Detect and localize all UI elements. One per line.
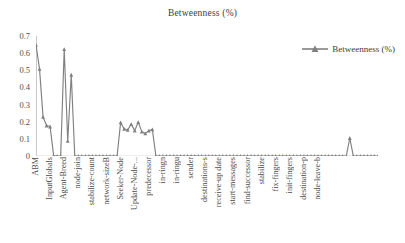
x-axis-tick-label: in-ringu bbox=[172, 157, 181, 183]
y-axis-tick-label: 0.4 bbox=[19, 82, 30, 92]
data-point-marker bbox=[348, 136, 352, 140]
y-axis: 00.10.20.30.40.50.60.7 bbox=[0, 30, 33, 162]
y-axis-tick-label: 0.7 bbox=[19, 31, 30, 41]
plot-area bbox=[36, 36, 378, 156]
x-axis: ABMInputGlobalsAgent-Breednode-joinstabi… bbox=[36, 157, 378, 243]
y-axis-tick-label: 0.3 bbox=[19, 100, 30, 110]
data-point-marker bbox=[69, 73, 73, 77]
x-axis-tick-label: stabilize bbox=[257, 157, 266, 184]
series-line-betweenness bbox=[36, 36, 378, 156]
x-axis-tick-label: destination-p bbox=[299, 157, 308, 200]
y-axis-tick-label: 0.5 bbox=[19, 65, 30, 75]
x-axis-tick-label: sender bbox=[186, 157, 195, 178]
x-axis-tick-label: in-ringn bbox=[158, 157, 167, 183]
x-axis-tick-label: Seeker-Node bbox=[116, 157, 125, 200]
data-point-marker bbox=[140, 130, 144, 134]
chart-title: Betweenness (%) bbox=[0, 8, 405, 18]
legend: Betweenness (%) bbox=[302, 44, 395, 54]
x-axis-tick-label: destinations-s bbox=[200, 157, 209, 202]
legend-label: Betweenness (%) bbox=[332, 44, 395, 54]
data-point-marker bbox=[129, 122, 133, 126]
x-axis-tick-label: network-sizeB bbox=[102, 157, 111, 205]
data-point-marker bbox=[36, 43, 38, 47]
y-axis-tick-label: 0.1 bbox=[19, 134, 30, 144]
x-axis-tick-label: receive-up date bbox=[214, 157, 223, 207]
legend-marker-icon bbox=[302, 44, 328, 54]
data-point-marker bbox=[136, 120, 140, 124]
chart-container: Betweenness (%) 00.10.20.30.40.50.60.7 A… bbox=[0, 0, 405, 243]
y-axis-tick-label: 0.2 bbox=[19, 117, 30, 127]
x-axis-tick-label: node-join bbox=[73, 157, 82, 188]
data-point-marker bbox=[38, 67, 42, 71]
x-axis-tick-label: node-leave-b bbox=[313, 157, 322, 200]
x-axis-tick-label: Agent-Breed bbox=[59, 157, 68, 199]
x-axis-tick-label: find-successor bbox=[243, 157, 252, 204]
x-axis-tick-label: start-messages bbox=[228, 157, 237, 205]
y-axis-tick-label: 0.6 bbox=[19, 48, 30, 58]
data-point-marker bbox=[41, 115, 45, 119]
data-point-marker bbox=[119, 121, 123, 125]
x-axis-tick-label: fix-fingers bbox=[271, 157, 280, 192]
x-axis-tick-label: stabilize-count bbox=[87, 157, 96, 205]
x-axis-tick-label: Update-Node-... bbox=[130, 157, 139, 210]
x-axis-tick-label: init-fingers bbox=[285, 157, 294, 193]
data-point-marker bbox=[66, 139, 70, 143]
y-axis-tick-label: 0 bbox=[26, 151, 30, 161]
x-axis-tick-label: InputGlobals bbox=[45, 157, 54, 200]
data-point-marker bbox=[62, 47, 66, 51]
x-axis-tick-label: ABM bbox=[31, 157, 40, 176]
x-axis-tick-label: predecessor bbox=[144, 157, 153, 196]
